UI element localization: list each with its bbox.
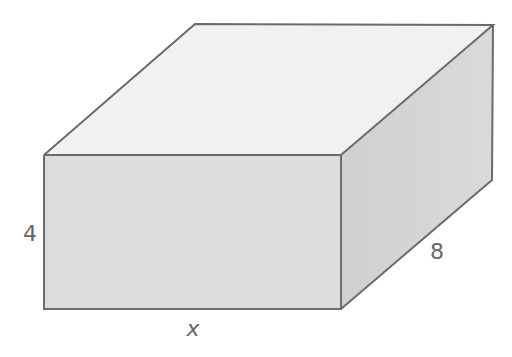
depth-label: 8 [430,239,444,264]
height-label: 4 [23,221,37,246]
rectangular-prism-diagram: 4 8 x [0,0,512,357]
prism-front-face [44,155,341,309]
width-label: x [185,316,200,341]
